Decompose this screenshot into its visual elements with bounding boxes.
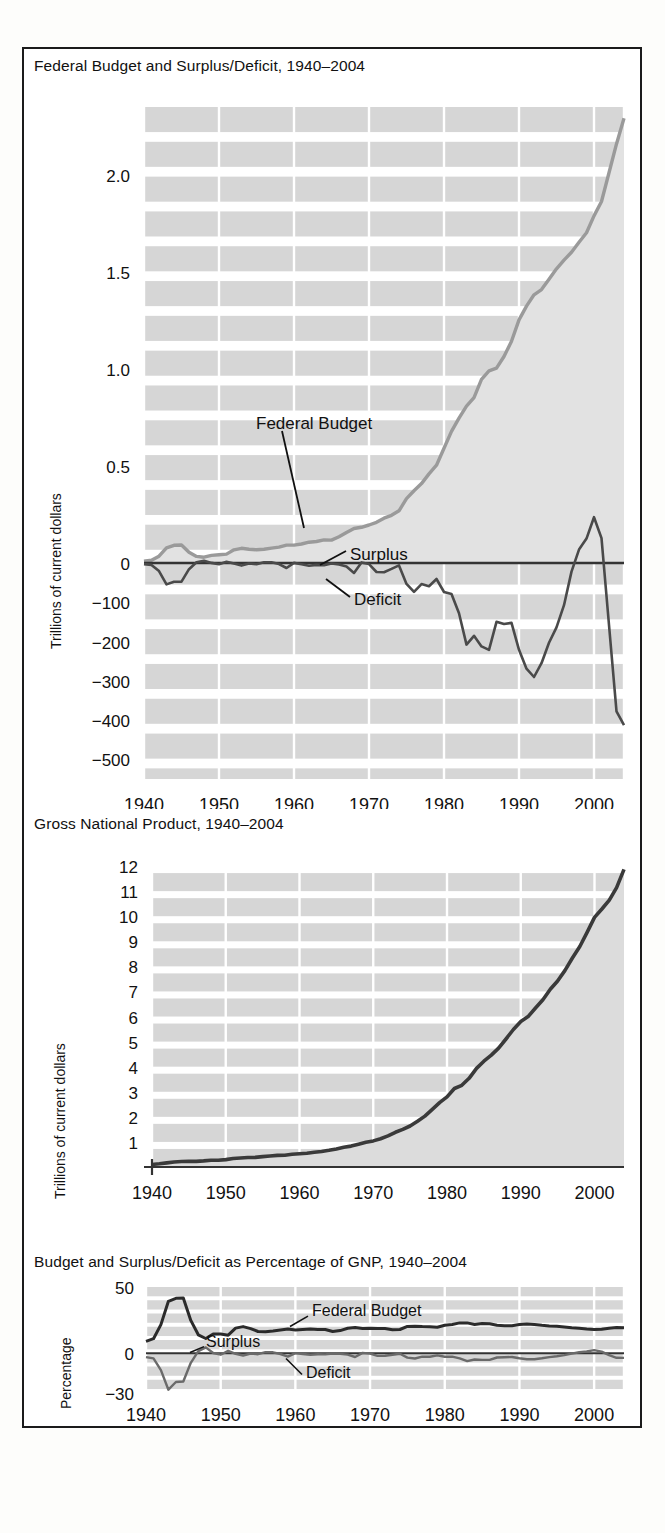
svg-text:1960: 1960 (274, 795, 314, 809)
chart-panel-pct-gnp: Budget and Surplus/Deficit as Percentage… (24, 1249, 640, 1427)
annotation-pct-surplus: Surplus (206, 1333, 260, 1350)
svg-text:−30: −30 (105, 1385, 134, 1404)
svg-text:1990: 1990 (501, 1183, 541, 1203)
svg-text:1940: 1940 (124, 795, 164, 809)
svg-text:3: 3 (129, 1084, 138, 1103)
svg-text:0.5: 0.5 (106, 458, 130, 477)
svg-text:1940: 1940 (126, 1405, 166, 1425)
svg-text:1950: 1950 (206, 1183, 246, 1203)
svg-text:1990: 1990 (499, 1405, 539, 1425)
svg-text:−300: −300 (92, 673, 130, 692)
svg-text:0: 0 (121, 555, 130, 574)
svg-text:−200: −200 (92, 634, 130, 653)
svg-text:9: 9 (129, 933, 138, 952)
svg-text:4: 4 (129, 1059, 138, 1078)
svg-text:1.0: 1.0 (106, 361, 130, 380)
svg-text:2: 2 (129, 1109, 138, 1128)
svg-text:5: 5 (129, 1034, 138, 1053)
annotation-surplus: Surplus (350, 545, 408, 564)
svg-text:1960: 1960 (279, 1183, 319, 1203)
annotation-deficit: Deficit (354, 590, 402, 609)
svg-text:2.0: 2.0 (106, 167, 130, 186)
svg-text:1990: 1990 (499, 795, 539, 809)
svg-text:1970: 1970 (350, 1405, 390, 1425)
chart-title-gnp: Gross National Product, 1940–2004 (34, 815, 284, 833)
svg-text:1940: 1940 (132, 1183, 172, 1203)
svg-text:1980: 1980 (425, 1405, 465, 1425)
svg-text:0: 0 (125, 1345, 134, 1364)
chart-svg-pct-gnp: −300501940195019601970198019902000Federa… (24, 1275, 640, 1425)
annotation-pct-deficit: Deficit (306, 1364, 351, 1381)
svg-text:11: 11 (120, 883, 138, 902)
svg-text:2000: 2000 (574, 1183, 614, 1203)
svg-text:1970: 1970 (353, 1183, 393, 1203)
svg-text:1950: 1950 (199, 795, 239, 809)
svg-text:2000: 2000 (574, 795, 614, 809)
svg-text:1960: 1960 (275, 1405, 315, 1425)
figure-frame: Federal Budget and Surplus/Deficit, 1940… (22, 47, 642, 1428)
chart-svg-federal-budget: 00.51.01.52.0−100−200−300−400−5001940195… (24, 79, 640, 809)
svg-text:7: 7 (129, 983, 138, 1002)
svg-text:−500: −500 (92, 751, 130, 770)
chart-svg-gnp: 1234567891011121940195019601970198019902… (24, 837, 640, 1247)
svg-text:8: 8 (129, 958, 138, 977)
svg-text:6: 6 (129, 1009, 138, 1028)
svg-text:−400: −400 (92, 712, 130, 731)
chart-panel-gnp: Gross National Product, 1940–2004 Trilli… (24, 809, 640, 1249)
svg-text:1: 1 (129, 1134, 138, 1153)
svg-text:2000: 2000 (574, 1405, 614, 1425)
chart-panel-federal-budget: Federal Budget and Surplus/Deficit, 1940… (24, 49, 640, 809)
svg-text:1.5: 1.5 (106, 264, 130, 283)
chart-title-pct-gnp: Budget and Surplus/Deficit as Percentage… (34, 1253, 467, 1271)
svg-text:50: 50 (115, 1279, 134, 1298)
chart-title-federal-budget: Federal Budget and Surplus/Deficit, 1940… (34, 57, 365, 75)
svg-text:1970: 1970 (349, 795, 389, 809)
annotation-federal-budget: Federal Budget (256, 414, 373, 433)
svg-text:−100: −100 (92, 594, 130, 613)
svg-text:1980: 1980 (427, 1183, 467, 1203)
svg-text:1950: 1950 (201, 1405, 241, 1425)
svg-text:10: 10 (119, 908, 138, 927)
annotation-pct-federal-budget: Federal Budget (312, 1302, 422, 1319)
svg-text:12: 12 (119, 858, 138, 877)
svg-text:1980: 1980 (424, 795, 464, 809)
